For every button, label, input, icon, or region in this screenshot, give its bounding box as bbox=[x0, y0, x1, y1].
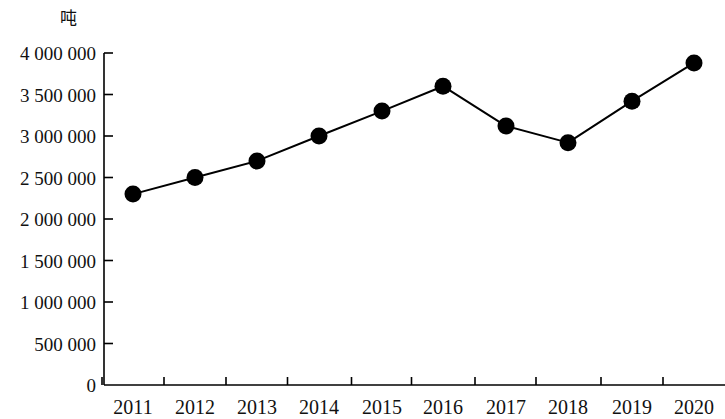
data-point-marker bbox=[498, 118, 515, 135]
data-point-marker bbox=[686, 54, 703, 71]
chart-container: 吨 0500 0001 000 0001 500 0002 000 0002 5… bbox=[0, 0, 725, 419]
data-point-marker bbox=[311, 128, 328, 145]
series-line bbox=[133, 63, 694, 194]
data-point-marker bbox=[560, 134, 577, 151]
data-point-markers bbox=[125, 54, 703, 202]
line-chart-plot bbox=[0, 0, 725, 419]
data-point-marker bbox=[435, 78, 452, 95]
data-point-marker bbox=[125, 186, 142, 203]
data-line bbox=[133, 63, 694, 194]
data-point-marker bbox=[624, 93, 641, 110]
data-point-marker bbox=[187, 169, 204, 186]
data-point-marker bbox=[249, 152, 266, 169]
data-point-marker bbox=[374, 103, 391, 120]
